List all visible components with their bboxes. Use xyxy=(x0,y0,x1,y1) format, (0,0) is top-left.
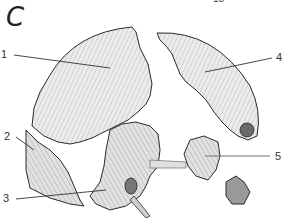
bone-3 xyxy=(90,122,160,210)
bone-illustration xyxy=(0,0,289,219)
bone-fragment xyxy=(226,176,250,204)
label-4: 4 xyxy=(276,51,282,63)
process xyxy=(130,196,150,218)
label-1: 1 xyxy=(1,48,7,60)
label-2: 2 xyxy=(4,130,10,142)
label-3: 3 xyxy=(3,192,9,204)
label-5: 5 xyxy=(275,150,281,162)
bone-5 xyxy=(184,136,220,180)
